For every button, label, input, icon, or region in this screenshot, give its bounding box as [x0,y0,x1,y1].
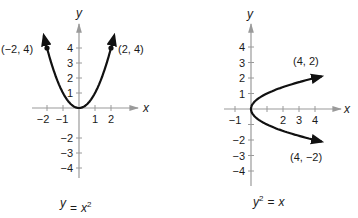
graph-y-equals-x-squared: x y −2−112 4321−2−3−4 (−2, 4)(2, 4) y=x2 [1,6,150,215]
y-tick-label: −3 [60,147,73,159]
parabola-curve [251,76,322,109]
parabola-curve-left-branch [44,35,79,108]
graph-y-squared-equals-x: x y −1234 4321−2−3−4 (4, 2)(4, −2) y2=x [224,7,351,209]
y-tick-label: 2 [239,72,245,84]
y-tick-label: −3 [232,150,245,162]
point-marker [108,45,113,50]
x-axis-label: x [343,102,351,116]
y-tick-label: −4 [60,162,73,174]
x-tick-label: 1 [92,113,98,125]
y-tick-label: 3 [239,57,245,69]
x-axis-label: x [142,101,150,115]
y-tick-label: −2 [232,134,245,146]
y-tick-label: 1 [239,88,245,100]
x-tick-label: −1 [56,113,69,125]
y-tick-label: 4 [239,41,245,53]
point-marker [312,75,317,80]
y-tick-label: 4 [67,42,73,54]
point-label: (−2, 4) [1,43,33,55]
y-axis-label: y [246,7,254,21]
point-label: (4, 2) [293,55,319,67]
point-label: (2, 4) [118,43,144,55]
y-tick-label: −2 [60,132,73,144]
x-tick-label: 4 [312,114,318,126]
parabola-curve [79,35,114,108]
equation-caption: y=x2 [59,196,92,215]
y-tick-label: 3 [67,57,73,69]
y-tick-label: −4 [232,165,245,177]
point-label: (4, −2) [290,151,322,163]
y-axis-label: y [75,6,83,20]
x-tick-label: −2 [37,113,50,125]
x-tick-label: 2 [108,113,114,125]
x-tick-label: 3 [296,114,302,126]
x-tick-label: 2 [280,114,286,126]
parabola-figure: x y −2−112 4321−2−3−4 (−2, 4)(2, 4) y=x2… [0,0,358,218]
equation-caption: y2=x [252,194,285,209]
y-tick-label: 2 [67,72,73,84]
x-tick-label: −1 [229,114,242,126]
y-tick-label: 1 [67,87,73,99]
